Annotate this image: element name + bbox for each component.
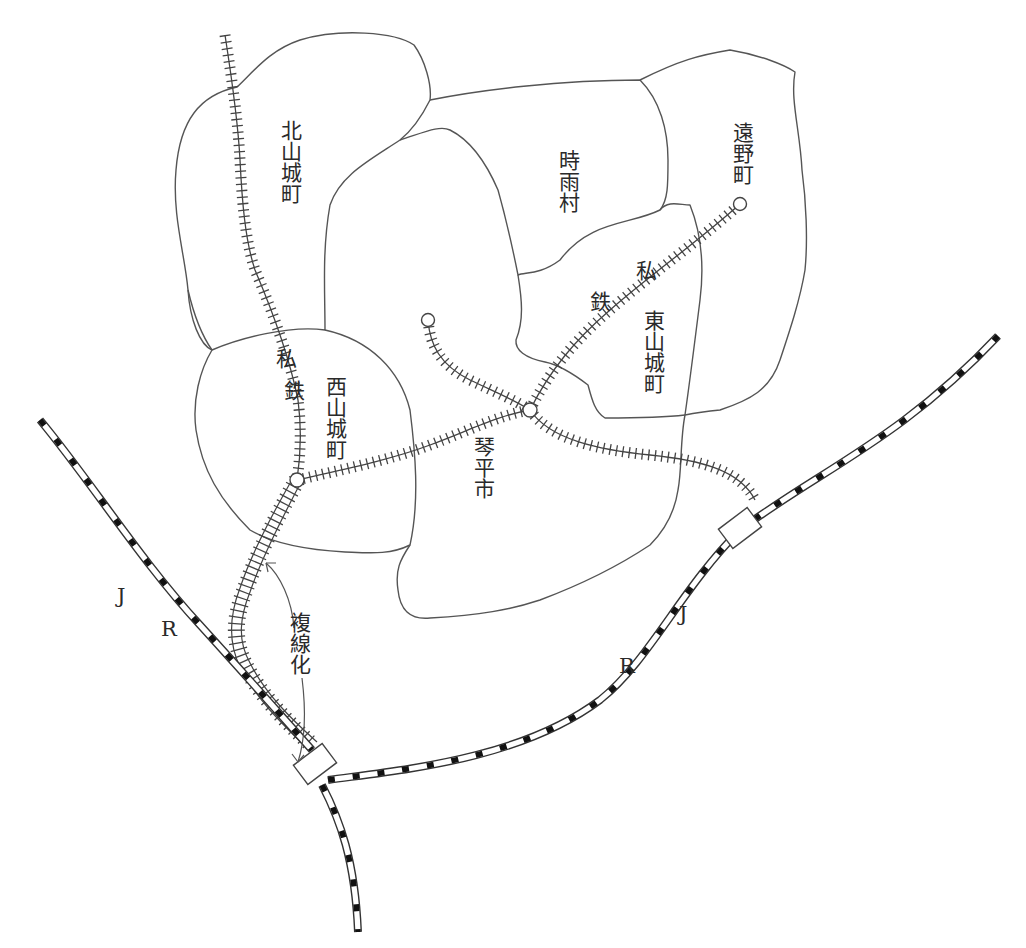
boundary-shigure bbox=[400, 80, 668, 275]
label-jr-west-r: R bbox=[161, 617, 177, 641]
municipal-boundaries bbox=[175, 33, 806, 618]
jr-lines bbox=[40, 336, 998, 932]
label-double-track: 複線化 bbox=[287, 612, 311, 675]
station-northwest-terminal bbox=[422, 314, 435, 327]
boundary-west-edge bbox=[188, 290, 212, 350]
label-nishiyamashiro: 西山城町 bbox=[323, 376, 347, 460]
label-higashiyamashiro: 東山城町 bbox=[641, 310, 665, 394]
label-jr-east-j: J bbox=[679, 602, 687, 626]
station-kotohira-junction bbox=[523, 403, 537, 417]
label-private-rail-east-1: 私 bbox=[636, 254, 657, 284]
label-jr-west-j: J bbox=[117, 584, 125, 608]
label-kitayamashiro: 北山城町 bbox=[278, 120, 302, 204]
stations bbox=[290, 198, 762, 785]
label-private-rail-west-1: 私 bbox=[276, 342, 297, 372]
boundary-kitayamashiro bbox=[175, 33, 430, 350]
label-jr-east-r: R bbox=[619, 654, 635, 678]
label-private-rail-east-2: 鉄 bbox=[590, 285, 611, 315]
railway-map bbox=[0, 0, 1026, 948]
label-shigure: 時雨村 bbox=[556, 150, 580, 213]
station-tono-terminal bbox=[734, 198, 747, 211]
label-tono: 遠野町 bbox=[730, 122, 754, 185]
station-nishiyamashiro-junction bbox=[290, 473, 304, 487]
label-private-rail-west-2: 鉄 bbox=[284, 374, 305, 404]
label-kotohira: 琴平市 bbox=[471, 436, 495, 499]
boundary-kotohira bbox=[325, 330, 685, 618]
